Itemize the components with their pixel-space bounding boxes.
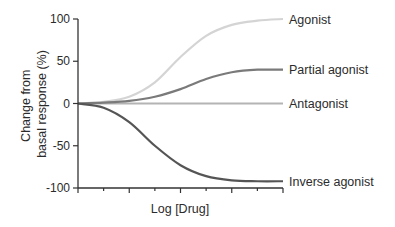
- antagonist-label: Antagonist: [289, 97, 349, 111]
- inverse-agonist-curve: [78, 104, 283, 182]
- partial-agonist-label: Partial agonist: [289, 63, 369, 77]
- inverse-agonist-label: Inverse agonist: [289, 175, 374, 189]
- y-axis-title-line-1: Change from: [19, 70, 33, 142]
- y-tick-label: 0: [63, 97, 70, 111]
- y-tick-label: -100: [46, 181, 70, 195]
- x-axis-title: Log [Drug]: [151, 202, 209, 216]
- y-tick-label: 100: [50, 12, 70, 26]
- partial-agonist-curve: [78, 70, 283, 104]
- plot-curves: [78, 19, 283, 181]
- agonist-label: Agonist: [289, 13, 331, 27]
- series-labels: AntagonistAgonistPartial agonistInverse …: [289, 13, 374, 189]
- y-axis-title: Change from basal response (%): [19, 50, 49, 158]
- y-tick-label: -50: [53, 139, 71, 153]
- y-axis-title-line-2: basal response (%): [35, 50, 49, 158]
- chart: 100500-50-100 AntagonistAgonistPartial a…: [0, 0, 395, 227]
- agonist-curve: [78, 19, 283, 104]
- y-tick-label: 50: [57, 54, 71, 68]
